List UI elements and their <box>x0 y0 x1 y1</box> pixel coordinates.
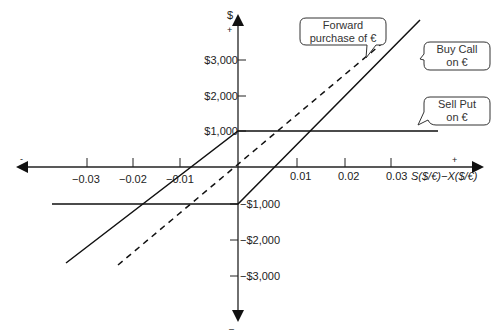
y-axis-minus: – <box>229 324 234 333</box>
y-tick-label: $2,000 <box>204 90 238 102</box>
svg-text:on €: on € <box>446 111 467 123</box>
y-axis-plus: + <box>227 25 232 35</box>
y-tick-label: −$2,000 <box>240 234 280 246</box>
x-tick-label: −0.02 <box>119 173 147 185</box>
svg-text:on €: on € <box>446 56 467 68</box>
y-axis-top-arrow-icon <box>232 14 244 26</box>
callout-forward-purchase: Forward purchase of € <box>300 18 386 58</box>
y-tick-label: −$1,000 <box>240 198 280 210</box>
svg-text:Sell Put: Sell Put <box>438 98 476 110</box>
payoff-chart: $ + – - + −0.03 −0.02 −0.01 0.01 0.02 0.… <box>0 0 496 333</box>
x-axis-minus: - <box>20 154 23 164</box>
y-axis-bottom-arrow-icon <box>232 310 244 322</box>
x-tick-label: 0.02 <box>338 170 359 182</box>
y-tick-label: −$3,000 <box>240 270 280 282</box>
svg-text:Buy Call: Buy Call <box>437 43 478 55</box>
x-axis-title: S($/€)−X($/€) <box>411 170 478 182</box>
y-tick-label: $3,000 <box>204 54 238 66</box>
series-buy-call <box>52 20 420 204</box>
x-tick-label: 0.01 <box>290 170 311 182</box>
callout-buy-call: Buy Call on € <box>420 42 490 70</box>
x-tick-label: −0.03 <box>72 173 100 185</box>
svg-text:Forward: Forward <box>323 19 363 31</box>
y-axis-unit: $ <box>227 9 233 21</box>
svg-text:purchase of €: purchase of € <box>310 32 377 44</box>
x-tick-label: 0.03 <box>386 170 407 182</box>
x-axis-plus: + <box>452 155 457 165</box>
callout-sell-put: Sell Put on € <box>418 97 490 125</box>
series-forward-purchase <box>118 40 386 265</box>
